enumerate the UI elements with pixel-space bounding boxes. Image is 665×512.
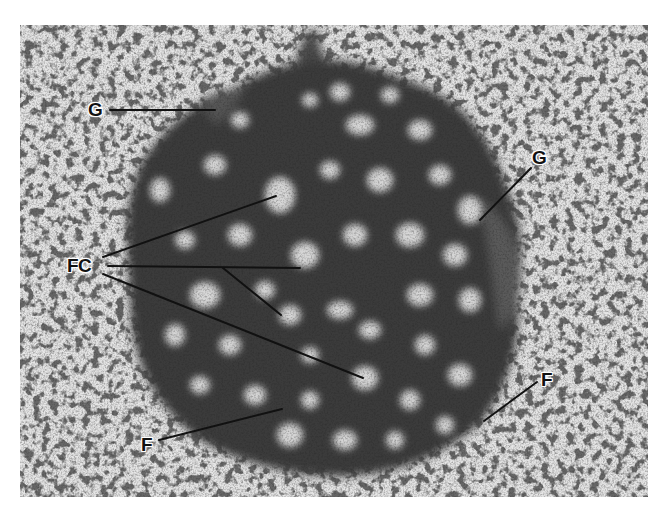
label-fc-fibrillar-center: FC — [67, 256, 91, 275]
label-g-right: G — [532, 148, 546, 167]
label-f-right: F — [541, 370, 552, 389]
micrograph-figure: G G FC F F — [0, 0, 665, 512]
label-f-bottom-left: F — [141, 435, 152, 454]
nucleolus-micrograph-image — [20, 25, 648, 497]
label-g-top-left: G — [88, 100, 102, 119]
